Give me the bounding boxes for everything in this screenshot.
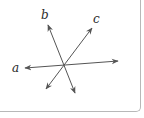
line-b-label: b xyxy=(41,8,49,22)
line-b: b xyxy=(41,8,75,93)
line-c: c xyxy=(46,12,100,89)
intersecting-lines-diagram: a b c xyxy=(0,0,144,118)
line-a-label: a xyxy=(12,61,19,75)
line-c-label: c xyxy=(93,12,100,26)
